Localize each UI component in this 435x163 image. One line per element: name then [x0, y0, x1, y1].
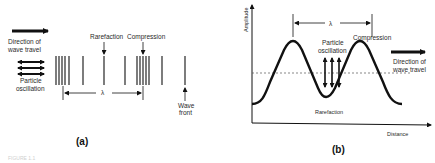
wavelength-symbol-b: λ [329, 20, 333, 27]
wavefront-label-line2: front [179, 109, 192, 116]
direction-label-b-line1: Direction of [393, 58, 426, 65]
rarefaction-label: Rarefaction [90, 33, 124, 40]
y-axis-label: Amplitude [243, 8, 249, 32]
longitudinal-wave-diagram: Direction of wave travel Particle oscill… [0, 0, 435, 163]
caption-b: (b) [332, 144, 345, 155]
compression-label: Compression [127, 33, 166, 41]
rarefaction-label-b: Rarefaction [315, 109, 343, 115]
wavelength-symbol: λ [101, 89, 105, 96]
wavefront-label-line1: Wave [178, 102, 195, 109]
caption-a: (a) [76, 136, 88, 147]
particle-label-line2: oscillation [16, 85, 45, 92]
panel-a: Direction of wave travel Particle oscill… [7, 31, 195, 147]
panel-b: Amplitude Distance λ Particle oscillatio… [243, 5, 431, 155]
x-axis-label: Distance [387, 131, 408, 137]
direction-label-line2: wave travel [7, 46, 41, 53]
particle-oscillation-arrows-icon [18, 62, 44, 74]
x-axis [252, 123, 431, 125]
direction-label-b-line2: wave travel [392, 66, 426, 73]
figure-footer: FIGURE 1.1 [8, 155, 35, 161]
particle-label-line1: Particle [20, 77, 42, 84]
particle-label-b-line1: Particle [322, 39, 344, 46]
compression-label-b: Compression [353, 34, 392, 42]
direction-label-line1: Direction of [8, 38, 41, 45]
wavefront-lines [56, 56, 185, 85]
particle-label-b-line2: oscillation [318, 47, 347, 54]
